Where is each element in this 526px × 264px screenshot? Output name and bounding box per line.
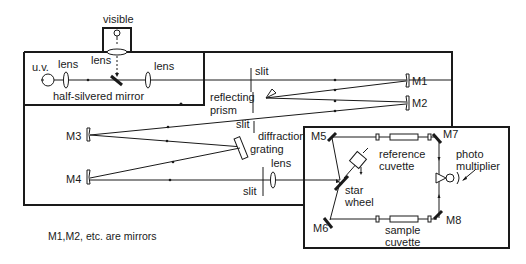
label-sample-cuvette-1: sample (385, 224, 420, 236)
label-m7: M7 (443, 128, 458, 140)
label-m4: M4 (66, 173, 81, 185)
label-visible: visible (103, 13, 134, 25)
diffraction-grating-icon (234, 137, 248, 160)
mirror-m4 (87, 170, 90, 184)
visible-source-housing (103, 28, 131, 52)
mirror-m3 (87, 128, 90, 141)
label-star-wheel-1: star (345, 184, 364, 196)
label-slit-2: slit (236, 118, 249, 130)
label-m3: M3 (66, 130, 81, 142)
mirror-m7 (433, 134, 441, 143)
label-reflecting-prism-2: prism (210, 104, 237, 116)
label-diffraction-grating-2: grating (250, 143, 284, 155)
label-lens-1: lens (58, 58, 79, 70)
label-m1: M1 (412, 75, 427, 87)
label-reflecting-prism-1: reflecting (210, 91, 255, 103)
label-lens-3: lens (154, 60, 175, 72)
label-lens-2: lens (91, 54, 112, 66)
label-m5: M5 (311, 130, 326, 142)
lens-icon (64, 72, 69, 88)
label-uv: u.v. (32, 61, 49, 73)
footnote: M1,M2, etc. are mirrors (48, 230, 157, 242)
photomultiplier-icon (436, 170, 475, 184)
label-star-wheel-2: wheel (344, 196, 374, 208)
mirror-m8 (434, 211, 442, 219)
spectrophotometer-diagram: visible u.v. lens lens lens half-silvere… (0, 0, 526, 264)
label-reference-cuvette-2: cuvette (379, 160, 414, 172)
label-diffraction-grating-1: diffraction (258, 130, 306, 142)
label-lens-4: lens (271, 157, 292, 169)
label-photomultiplier-2: multiplier (456, 160, 500, 172)
label-half-silvered-mirror: half-silvered mirror (53, 90, 144, 102)
mirror-m2 (406, 96, 409, 110)
label-m2: M2 (412, 97, 427, 109)
uv-lamp-icon (41, 74, 54, 86)
lens-icon (146, 72, 151, 88)
label-sample-cuvette-2: cuvette (385, 236, 420, 248)
label-slit-3: slit (243, 185, 256, 197)
lens-icon (271, 172, 276, 188)
label-photomultiplier-1: photo (456, 148, 484, 160)
label-m6: M6 (313, 222, 328, 234)
label-m8: M8 (446, 214, 461, 226)
label-slit-1: slit (255, 65, 268, 77)
label-reference-cuvette-1: reference (379, 148, 425, 160)
